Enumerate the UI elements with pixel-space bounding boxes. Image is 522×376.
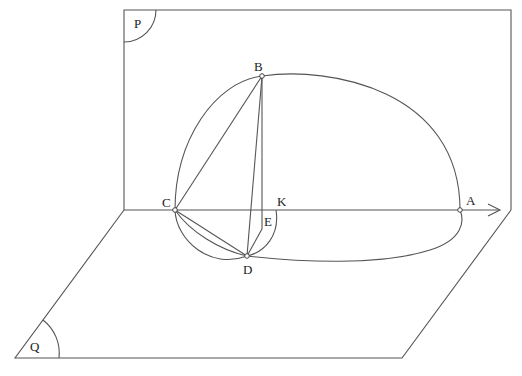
label-b: B <box>254 59 263 74</box>
plane-q-angle-arc <box>43 320 59 358</box>
segment-bd <box>247 76 262 256</box>
semicircle-cba <box>175 74 460 210</box>
geometry-diagram: P Q C B D A E K <box>0 0 522 376</box>
label-a: A <box>466 193 476 208</box>
plane-p: P <box>124 10 511 210</box>
segment-cd <box>175 210 247 256</box>
label-d: D <box>243 262 252 277</box>
point-b <box>260 74 265 79</box>
label-c: C <box>162 195 171 210</box>
plane-q: Q <box>15 210 511 358</box>
plane-p-label: P <box>134 16 141 31</box>
label-e: E <box>264 214 272 229</box>
point-c <box>173 208 178 213</box>
plane-q-label: Q <box>30 339 40 354</box>
label-k: K <box>277 194 287 209</box>
ellipse-arc-da <box>247 210 462 261</box>
intersection-line-ca <box>124 204 500 216</box>
point-a <box>458 208 463 213</box>
point-d <box>245 254 250 259</box>
